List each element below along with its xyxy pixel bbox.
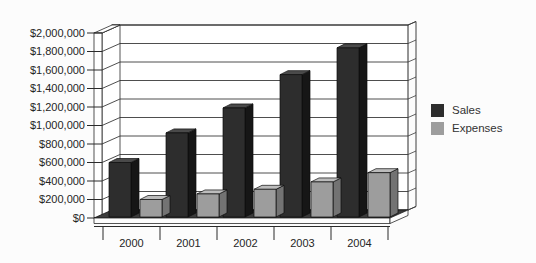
chart-legend: Sales Expenses <box>431 104 503 135</box>
right-wall-rung <box>408 207 416 211</box>
bar-expenses-2002 <box>254 189 276 217</box>
y-axis-label: $2,000,000 <box>30 27 85 39</box>
bar-sales-2004-side <box>359 44 367 217</box>
bar-expenses-2002-side <box>276 185 284 217</box>
bar-sales-2003-side <box>302 71 310 217</box>
legend-label-expenses: Expenses <box>452 122 503 135</box>
x-axis-label: 2002 <box>233 237 257 249</box>
bar-sales-2000-side <box>131 159 139 218</box>
legend-item-expenses: Expenses <box>431 122 503 135</box>
right-wall-rung <box>408 188 416 192</box>
right-wall-rung <box>408 170 416 174</box>
bar-expenses-2001 <box>197 194 219 217</box>
right-wall-rung <box>408 96 416 100</box>
right-wall-rung <box>408 151 416 155</box>
y-axis-label: $1,600,000 <box>30 64 85 76</box>
expenses-swatch-icon <box>431 122 444 135</box>
sales-swatch-icon <box>431 104 444 117</box>
legend-item-sales: Sales <box>431 104 503 117</box>
x-axis-label: 2000 <box>119 237 143 249</box>
y-axis-label: $1,200,000 <box>30 101 85 113</box>
x-axis-label: 2003 <box>290 237 314 249</box>
right-wall-rung <box>408 133 416 137</box>
right-wall-rung <box>408 114 416 118</box>
y-axis-label: $400,000 <box>39 175 85 187</box>
bar-expenses-2001-side <box>219 190 227 217</box>
bar-expenses-2004 <box>368 173 390 217</box>
y-axis-label: $200,000 <box>39 193 85 205</box>
bar-expenses-2000 <box>140 200 162 218</box>
chart-screenshot: $0$200,000$400,000$600,000$800,000$1,000… <box>0 0 536 263</box>
y-axis-label: $0 <box>73 212 85 224</box>
right-wall-rung <box>408 40 416 44</box>
y-axis-label: $1,400,000 <box>30 82 85 94</box>
bar-expenses-2003-side <box>333 178 341 217</box>
floor-front <box>94 218 390 224</box>
x-axis-label: 2004 <box>347 237 371 249</box>
bar-sales-2001-side <box>188 129 196 217</box>
bar-expenses-2004-side <box>390 169 398 217</box>
right-wall-rung <box>408 77 416 81</box>
right-wall-rung <box>408 59 416 63</box>
bar-sales-2002-side <box>245 104 253 217</box>
bar-sales-2000 <box>109 163 131 218</box>
legend-label-sales: Sales <box>452 104 481 117</box>
y-axis-label: $800,000 <box>39 138 85 150</box>
bar-expenses-2003 <box>311 182 333 217</box>
y-axis-label: $1,000,000 <box>30 119 85 131</box>
y-axis-label: $600,000 <box>39 156 85 168</box>
right-wall-rung <box>408 22 416 26</box>
x-axis-label: 2001 <box>176 237 200 249</box>
y-axis-label: $1,800,000 <box>30 45 85 57</box>
